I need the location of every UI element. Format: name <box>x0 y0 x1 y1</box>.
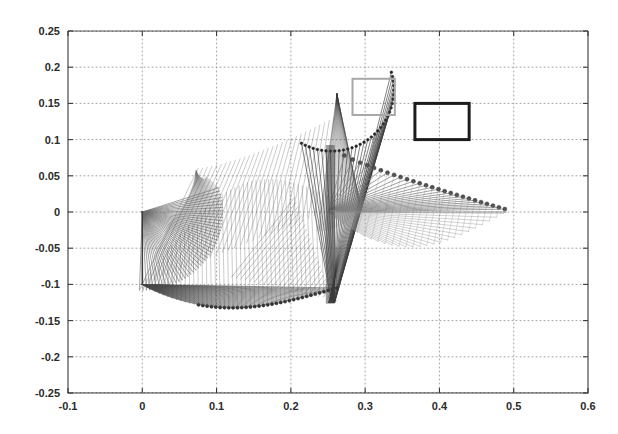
x-tick-label: 0 <box>139 400 145 412</box>
endpoint-marker <box>367 138 370 141</box>
y-tick-label: -0.2 <box>41 351 60 363</box>
y-tick-label: 0.2 <box>45 61 60 73</box>
endpoint-marker <box>390 71 393 74</box>
endpoint-marker <box>355 145 358 148</box>
y-tick-label: -0.1 <box>41 278 60 290</box>
x-tick-label: 0.6 <box>580 400 595 412</box>
figure-canvas: -0.100.10.20.30.40.50.6-0.25-0.2-0.15-0.… <box>0 0 618 434</box>
x-tick-label: 0.3 <box>357 400 372 412</box>
endpoint-marker <box>308 146 311 149</box>
endpoint-marker <box>351 146 354 149</box>
plot-svg: -0.100.10.20.30.40.50.6-0.25-0.2-0.15-0.… <box>0 0 618 434</box>
y-tick-label: 0.15 <box>39 97 60 109</box>
endpoint-marker <box>363 141 366 144</box>
y-tick-label: 0 <box>54 206 60 218</box>
y-tick-label: 0.05 <box>39 170 60 182</box>
figure-background <box>0 0 618 434</box>
endpoint-marker <box>316 148 319 151</box>
y-tick-label: -0.05 <box>35 242 60 254</box>
endpoint-marker <box>320 149 323 152</box>
y-tick-label: 0.25 <box>39 25 60 37</box>
y-tick-label: -0.25 <box>35 387 60 399</box>
y-tick-label: 0.1 <box>45 134 60 146</box>
y-tick-label: -0.15 <box>35 315 60 327</box>
endpoint-marker <box>359 143 362 146</box>
x-tick-label: 0.1 <box>209 400 224 412</box>
x-tick-label: -0.1 <box>59 400 78 412</box>
x-tick-label: 0.5 <box>506 400 521 412</box>
x-tick-label: 0.2 <box>283 400 298 412</box>
endpoint-marker <box>312 147 315 150</box>
endpoint-marker <box>304 144 307 147</box>
endpoint-marker <box>300 142 303 145</box>
x-tick-label: 0.4 <box>432 400 448 412</box>
endpoint-marker <box>391 75 394 78</box>
endpoint-marker <box>370 136 373 139</box>
